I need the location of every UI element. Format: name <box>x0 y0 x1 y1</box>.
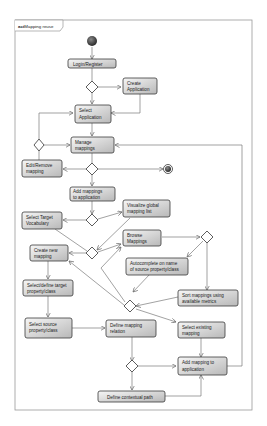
action-sort-mappings[interactable]: Sort mappings using available metrics <box>178 290 238 306</box>
action-create-application[interactable]: Create Application <box>123 78 157 94</box>
svg-text:Define contextual path: Define contextual path <box>107 395 153 400</box>
end-node-icon <box>164 165 173 174</box>
svg-text:Edit/Remove: Edit/Remove <box>26 163 53 168</box>
svg-text:of source property/class: of source property/class <box>130 267 179 272</box>
action-login-register[interactable]: Login/Register <box>68 59 116 68</box>
action-add-mappings-to-application[interactable]: Add mappings to application <box>70 187 115 201</box>
svg-text:Select source: Select source <box>29 322 57 327</box>
frame-title: actMapping reuse <box>18 24 54 29</box>
action-define-contextual-path[interactable]: Define contextual path <box>98 391 165 402</box>
start-node-icon <box>87 36 97 46</box>
action-define-mapping-relation[interactable]: Define mapping relation <box>106 320 156 337</box>
action-select-application[interactable]: Select Application <box>75 105 111 123</box>
svg-text:Define mapping: Define mapping <box>110 323 143 328</box>
action-autocomplete-source[interactable]: Autocomplete on name of source property/… <box>126 258 188 275</box>
action-edit-remove-mapping[interactable]: Edit/Remove mapping <box>22 160 62 177</box>
svg-text:Add mappings: Add mappings <box>73 189 103 194</box>
svg-text:mapping: mapping <box>26 169 44 174</box>
svg-text:relation: relation <box>110 329 126 334</box>
svg-text:Application: Application <box>79 115 102 120</box>
action-select-define-target[interactable]: Select/define target property/class <box>23 280 73 296</box>
svg-text:Select Target: Select Target <box>26 215 53 220</box>
activity-diagram: actMapping reuse <box>0 0 267 426</box>
svg-text:Select/define target: Select/define target <box>27 283 67 288</box>
action-select-target-vocabulary[interactable]: Select Target Vocabulary <box>22 212 62 229</box>
svg-text:Browse: Browse <box>127 233 143 238</box>
action-browse-mappings[interactable]: Browse Mappings <box>123 230 161 246</box>
svg-text:to application: to application <box>73 195 101 200</box>
svg-text:Add mapping to: Add mapping to <box>182 360 215 365</box>
svg-text:Manage: Manage <box>75 140 92 145</box>
svg-text:Create new: Create new <box>34 248 58 253</box>
svg-text:property/class: property/class <box>29 328 58 333</box>
svg-text:available metrics: available metrics <box>182 299 217 304</box>
svg-text:Create: Create <box>127 81 141 86</box>
svg-text:Sort mappings using: Sort mappings using <box>182 293 224 298</box>
svg-text:Select: Select <box>79 108 92 113</box>
svg-text:Mappings: Mappings <box>127 239 148 244</box>
action-manage-mappings[interactable]: Manage mappings <box>71 137 114 153</box>
svg-text:mapping: mapping <box>34 254 52 259</box>
svg-text:mappings: mappings <box>75 146 96 151</box>
svg-text:Select existing: Select existing <box>182 325 212 330</box>
svg-text:Autocomplete on name: Autocomplete on name <box>130 261 178 266</box>
action-add-mapping-to-application[interactable]: Add mapping to application <box>178 357 227 375</box>
svg-text:Vocabulary: Vocabulary <box>26 221 49 226</box>
action-select-existing-mapping[interactable]: Select existing mapping <box>178 322 225 338</box>
svg-text:Login/Register: Login/Register <box>73 62 103 67</box>
action-visualize-global-mapping-list[interactable]: Visualize global mapping list <box>123 200 170 217</box>
svg-text:Visualize global: Visualize global <box>127 203 159 208</box>
action-select-source[interactable]: Select source property/class <box>25 318 72 338</box>
action-create-new-mapping[interactable]: Create new mapping <box>30 245 68 261</box>
svg-text:application: application <box>182 367 204 372</box>
svg-text:mapping list: mapping list <box>127 209 152 214</box>
svg-text:Application: Application <box>127 87 150 92</box>
svg-text:mapping: mapping <box>182 331 200 336</box>
svg-text:property/class: property/class <box>27 289 56 294</box>
